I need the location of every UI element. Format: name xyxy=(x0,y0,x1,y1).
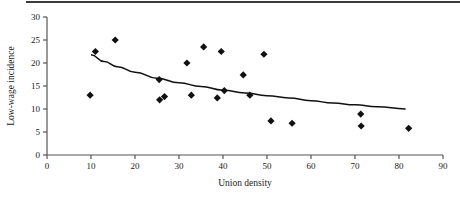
x-axis-title: Union density xyxy=(218,178,272,188)
data-point-marker xyxy=(112,36,119,43)
x-tick-label: 70 xyxy=(351,161,361,171)
data-point-marker xyxy=(357,110,364,117)
y-tick-label: 20 xyxy=(31,58,41,68)
x-tick-marks xyxy=(47,155,443,159)
y-tick-label: 10 xyxy=(31,104,41,114)
data-point-marker xyxy=(214,94,221,101)
data-point-marker xyxy=(358,122,365,129)
y-tick-label-group: 051015202530 xyxy=(31,12,41,160)
x-axis: 0102030405060708090 xyxy=(45,155,448,171)
y-tick-label: 0 xyxy=(36,150,41,160)
y-tick-label: 30 xyxy=(31,12,41,22)
x-tick-label: 80 xyxy=(395,161,405,171)
data-point-marker xyxy=(267,117,274,124)
data-point-group xyxy=(87,36,413,132)
x-tick-label: 40 xyxy=(219,161,229,171)
trend-line xyxy=(91,55,406,109)
data-point-marker xyxy=(288,120,295,127)
x-tick-label-group: 0102030405060708090 xyxy=(45,161,448,171)
figure-container: 051015202530 0102030405060708090 Union d… xyxy=(0,0,460,207)
y-axis: 051015202530 xyxy=(31,12,47,160)
x-tick-label: 60 xyxy=(307,161,317,171)
data-point-marker xyxy=(183,59,190,66)
data-point-marker xyxy=(218,48,225,55)
x-tick-label: 50 xyxy=(263,161,273,171)
data-point-marker xyxy=(92,48,99,55)
scatter-plot: 051015202530 0102030405060708090 Union d… xyxy=(0,0,460,207)
y-tick-label: 15 xyxy=(31,81,41,91)
data-point-marker xyxy=(188,92,195,99)
data-point-marker xyxy=(260,51,267,58)
x-tick-label: 0 xyxy=(45,161,50,171)
x-tick-label: 10 xyxy=(87,161,97,171)
data-point-marker xyxy=(405,125,412,132)
y-axis-title: Low-wage incidence xyxy=(6,46,16,125)
y-tick-label: 25 xyxy=(31,35,41,45)
data-point-marker xyxy=(156,76,163,83)
x-tick-label: 20 xyxy=(131,161,141,171)
data-point-marker xyxy=(87,92,94,99)
data-point-marker xyxy=(240,71,247,78)
x-tick-label: 30 xyxy=(175,161,185,171)
data-point-marker xyxy=(200,43,207,50)
data-point-marker xyxy=(221,87,228,94)
y-tick-label: 5 xyxy=(36,127,41,137)
x-tick-label: 90 xyxy=(439,161,449,171)
